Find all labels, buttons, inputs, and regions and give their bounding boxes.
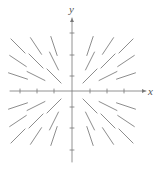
slope-segment (101, 54, 115, 68)
x-axis-arrowhead (142, 89, 146, 93)
slope-segment (11, 129, 25, 143)
slope-segment (117, 103, 136, 109)
slope-segment (27, 72, 45, 81)
slope-segment (29, 114, 43, 128)
slope-segment (99, 102, 117, 111)
slope-segment (11, 39, 25, 53)
slope-segment (30, 128, 41, 145)
y-axis-label: y (69, 4, 74, 15)
slope-segment (83, 99, 97, 113)
slope-field-plot (0, 0, 161, 169)
x-axis-label: x (148, 86, 153, 97)
slope-segment (118, 115, 135, 126)
slope-segment (119, 129, 133, 143)
slope-field-figure: y x (0, 0, 161, 169)
slope-segment (119, 39, 133, 53)
slope-segment (30, 38, 41, 55)
slope-segment (102, 128, 113, 145)
slope-segment (29, 54, 43, 68)
slope-segment (87, 37, 93, 56)
y-axis-arrowhead (70, 18, 74, 22)
slope-segment (87, 127, 93, 146)
slope-segment (9, 73, 28, 79)
slope-segment (51, 37, 57, 56)
slope-segment (83, 69, 97, 83)
slope-segment (99, 72, 117, 81)
slope-segment (101, 114, 115, 128)
slope-segment (102, 38, 113, 55)
slope-segment (118, 55, 135, 66)
slope-segment (9, 103, 28, 109)
slope-segment (10, 115, 27, 126)
slope-segment (47, 69, 61, 83)
slope-segment (51, 127, 57, 146)
slope-segment (117, 73, 136, 79)
axes-group (10, 18, 146, 162)
slope-segment (10, 55, 27, 66)
slope-segment (47, 99, 61, 113)
slope-segment (27, 102, 45, 111)
